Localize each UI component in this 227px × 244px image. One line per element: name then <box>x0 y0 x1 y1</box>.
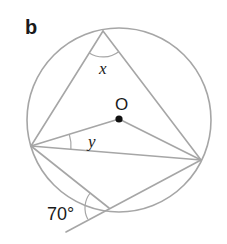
radius-to-left <box>31 119 119 146</box>
center-label: O <box>115 95 128 114</box>
angle-x-arc <box>89 52 119 57</box>
angle-x-label: x <box>98 59 107 78</box>
circle-theorem-diagram: b O x y 70° <box>0 0 227 244</box>
angle-y-arc <box>69 134 71 149</box>
chord-top-left <box>31 31 103 146</box>
center-point <box>115 115 122 122</box>
tangent-line <box>66 160 201 232</box>
part-label: b <box>25 16 37 38</box>
angle-y-label: y <box>86 132 96 151</box>
angle-70-label: 70° <box>47 204 74 224</box>
